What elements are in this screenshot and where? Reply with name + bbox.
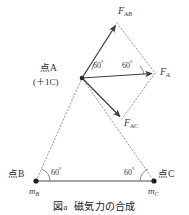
point-b-label: 点B <box>8 170 24 180</box>
angle-a-upper-value: 60 <box>93 61 101 70</box>
angle-b-value: 60 <box>51 168 59 177</box>
dotted-line-a-to-c <box>82 78 154 181</box>
angle-a-upper-degree: ° <box>101 60 103 66</box>
angle-a-lower-degree: ° <box>130 60 132 66</box>
figure-caption-index: 図 <box>53 201 63 212</box>
charge-label-m-c: mC <box>148 187 159 197</box>
figure-caption-text: 磁気力の合成 <box>74 201 136 212</box>
angle-label-a-upper: 60° <box>93 60 103 70</box>
figure-caption-index-letter: a <box>64 203 68 212</box>
angle-c-degree: ° <box>132 167 134 173</box>
figure-caption: 図a 磁気力の合成 <box>0 198 189 213</box>
point-a-label: 点A <box>40 64 57 74</box>
vector-label-f-ab: FAB <box>118 6 132 18</box>
vector-f-a <box>82 74 152 79</box>
magnetic-force-composition-figure: FAB FA FAC 点A (＋1C) 60° 60° 60° 60° 点B m… <box>0 0 189 215</box>
dotted-parallelogram-lower-right <box>122 73 155 119</box>
angle-label-b: 60° <box>51 167 61 177</box>
vector-f-ab <box>82 26 116 79</box>
angle-label-a-lower: 60° <box>122 60 132 70</box>
dotted-line-b-to-a <box>36 78 82 181</box>
charge-label-m-b: mB <box>29 187 39 197</box>
figure-vector-canvas <box>0 0 189 215</box>
vector-label-f-a: FA <box>160 67 170 79</box>
vector-f-ac <box>82 78 120 117</box>
f-a-subscript: A <box>166 71 170 78</box>
vector-label-f-ac: FAC <box>124 118 138 130</box>
m-c-subscript: C <box>155 191 159 197</box>
point-c-label: 点C <box>158 170 174 180</box>
angle-c-value: 60 <box>124 168 132 177</box>
vertex-dot-b <box>33 178 38 183</box>
f-ab-subscript: AB <box>124 10 132 17</box>
vertex-dot-c <box>151 178 156 183</box>
angle-a-lower-value: 60 <box>122 61 130 70</box>
angle-arc-b <box>42 169 50 181</box>
f-ac-subscript: AC <box>130 122 138 129</box>
point-a-charge-label: (＋1C) <box>33 78 59 87</box>
m-b-subscript: B <box>36 191 40 197</box>
angle-label-c: 60° <box>124 167 134 177</box>
angle-b-degree: ° <box>59 167 61 173</box>
vertex-dot-a <box>80 76 85 81</box>
